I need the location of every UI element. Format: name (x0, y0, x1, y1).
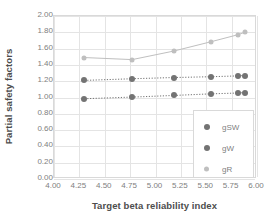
x-axis-title: Target beta reliability index (53, 200, 256, 211)
y-tick-label: 0.20 (23, 157, 53, 166)
data-point-gSW (208, 74, 214, 80)
data-point-gR (82, 55, 87, 60)
legend: gSWgWgR (193, 110, 254, 178)
y-tick-label: 1.40 (23, 59, 53, 68)
data-point-gW (81, 96, 87, 102)
legend-label: gSW (222, 123, 239, 132)
data-point-gSW (235, 73, 241, 79)
trend-line-gW (84, 93, 244, 99)
legend-item-gW[interactable]: gW (194, 137, 253, 159)
data-point-gR (235, 32, 240, 37)
data-point-gR (171, 49, 176, 54)
x-tick-label: 6.00 (239, 181, 273, 190)
data-point-gW (235, 90, 241, 96)
data-point-gW (171, 92, 177, 98)
legend-marker-icon (204, 167, 209, 172)
y-tick-label: 0.60 (23, 124, 53, 133)
data-point-gR (130, 57, 135, 62)
legend-label: gW (222, 144, 234, 153)
data-point-gSW (242, 73, 248, 79)
y-tick-label: 1.80 (23, 26, 53, 35)
data-point-gSW (81, 77, 87, 83)
data-point-gR (209, 39, 214, 44)
data-point-gSW (171, 75, 177, 81)
y-axis-title: Partial safety factors (2, 15, 16, 178)
legend-marker-icon (204, 124, 210, 130)
trend-line-gSW (84, 76, 244, 81)
legend-marker-icon (204, 145, 210, 151)
data-point-gSW (129, 76, 135, 82)
chart-container: Partial safety factors Target beta relia… (0, 0, 276, 221)
y-tick-label: 1.00 (23, 92, 53, 101)
gridline-vertical (257, 16, 258, 177)
y-tick-label: 2.00 (23, 10, 53, 19)
data-point-gW (242, 90, 248, 96)
legend-item-gSW[interactable]: gSW (194, 116, 253, 138)
legend-item-gR[interactable]: gR (194, 158, 253, 180)
y-tick-label: 1.20 (23, 75, 53, 84)
data-point-gW (208, 91, 214, 97)
y-tick-label: 1.60 (23, 43, 53, 52)
y-tick-label: 0.40 (23, 140, 53, 149)
data-point-gW (129, 94, 135, 100)
legend-label: gR (222, 165, 232, 174)
data-point-gR (242, 30, 247, 35)
trend-line-gR (84, 32, 244, 59)
y-tick-label: 0.80 (23, 108, 53, 117)
